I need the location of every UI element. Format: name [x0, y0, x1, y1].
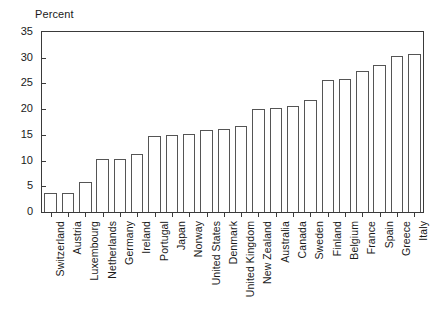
bar	[252, 109, 264, 212]
x-tick-mark	[189, 213, 190, 217]
x-tick-mark	[120, 213, 121, 217]
bar	[79, 182, 91, 212]
x-tick-label: Italy	[418, 221, 429, 241]
bar	[287, 106, 299, 212]
x-tick-label: Luxembourg	[89, 221, 100, 280]
x-tick-mark	[224, 213, 225, 217]
y-tick-label: 10	[11, 155, 33, 166]
x-tick-mark	[414, 213, 415, 217]
bar	[44, 193, 56, 212]
x-tick-mark	[68, 213, 69, 217]
bar-chart: Percent 05101520253035 SwitzerlandAustri…	[0, 0, 437, 319]
bar	[391, 56, 403, 212]
bar	[148, 136, 160, 212]
x-tick-mark	[137, 213, 138, 217]
bars-group	[42, 32, 423, 212]
x-tick-label: Australia	[280, 221, 291, 263]
x-tick-label: Switzerland	[55, 221, 66, 276]
x-tick-mark	[241, 213, 242, 217]
x-tick-mark	[276, 213, 277, 217]
x-tick-label: Finland	[332, 221, 343, 256]
bar	[356, 71, 368, 212]
x-tick-mark	[85, 213, 86, 217]
y-tick-label: 35	[11, 26, 33, 37]
x-tick-label: Spain	[384, 221, 395, 248]
bar	[235, 126, 247, 212]
bar	[373, 65, 385, 212]
y-tick-label: 20	[11, 103, 33, 114]
x-tick-label: Ireland	[141, 221, 152, 254]
x-tick-mark	[310, 213, 311, 217]
y-tick-label: 15	[11, 129, 33, 140]
x-tick-mark	[207, 213, 208, 217]
x-tick-mark	[51, 213, 52, 217]
x-tick-mark	[293, 213, 294, 217]
y-axis-title: Percent	[35, 8, 74, 21]
x-tick-label: Portugal	[159, 221, 170, 261]
x-tick-mark	[362, 213, 363, 217]
x-tick-mark	[328, 213, 329, 217]
x-tick-label: Canada	[297, 221, 308, 258]
x-tick-label: Greece	[401, 221, 412, 256]
x-tick-mark	[397, 213, 398, 217]
x-tick-mark	[155, 213, 156, 217]
x-tick-label: France	[366, 221, 377, 254]
bar	[339, 79, 351, 212]
bar	[200, 130, 212, 212]
bar	[114, 159, 126, 212]
x-tick-label: Denmark	[228, 221, 239, 264]
x-tick-mark	[380, 213, 381, 217]
bar	[131, 154, 143, 212]
bar	[304, 100, 316, 212]
x-tick-label: Sweden	[314, 221, 325, 260]
bar	[270, 108, 282, 212]
y-tick-label: 0	[11, 206, 33, 217]
x-tick-label: Austria	[72, 221, 83, 254]
bar	[166, 135, 178, 212]
x-tick-label: Belgium	[349, 221, 360, 260]
x-tick-label: Germany	[124, 221, 135, 265]
x-tick-label: United Kingdom	[245, 221, 256, 297]
y-tick-label: 25	[11, 77, 33, 88]
x-tick-mark	[345, 213, 346, 217]
x-tick-label: United States	[211, 221, 222, 285]
x-tick-label: Japan	[176, 221, 187, 250]
x-tick-mark	[258, 213, 259, 217]
y-tick-label: 5	[11, 180, 33, 191]
x-tick-mark	[103, 213, 104, 217]
bar	[96, 159, 108, 212]
bar	[322, 80, 334, 212]
x-tick-mark	[172, 213, 173, 217]
bar	[408, 54, 420, 212]
bar	[62, 193, 74, 212]
bar	[183, 134, 195, 212]
x-tick-label: New Zealand	[262, 221, 273, 284]
bar	[218, 129, 230, 212]
x-tick-label: Norway	[193, 221, 204, 257]
y-tick-label: 30	[11, 52, 33, 63]
x-tick-label: Netherlands	[107, 221, 118, 279]
